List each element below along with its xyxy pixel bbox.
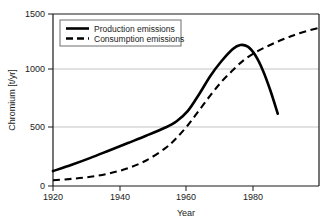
chart-figure: 0 500 1000 1500 1920 1940 1960 1980 Year… [0,0,335,222]
y-axis-title: Chromium [t/yr] [7,69,17,131]
y-tick-label-1000: 1000 [25,64,45,74]
chart-canvas: 0 500 1000 1500 1920 1940 1960 1980 Year… [0,0,335,222]
legend-label-production-emissions: Production emissions [94,24,175,34]
x-axis-title: Year [177,208,195,218]
x-tick-label-1980: 1980 [243,192,263,202]
legend-label-consumption-emissions: Consumption emissions [94,34,184,44]
y-tick-label-500: 500 [30,122,45,132]
y-tick-label-1500: 1500 [25,9,45,19]
x-tick-label-1940: 1940 [110,192,130,202]
legend[interactable]: Production emissions Consumption emissio… [60,20,184,46]
x-tick-label-1960: 1960 [176,192,196,202]
x-tick-label-1920: 1920 [43,192,63,202]
y-tick-label-0: 0 [40,181,45,191]
